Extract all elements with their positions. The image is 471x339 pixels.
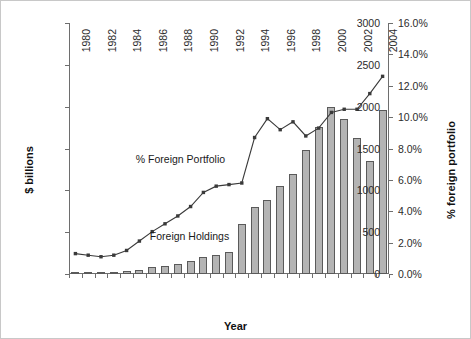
y-axis-left-title: $ billions [23, 146, 35, 194]
line-marker [74, 252, 77, 255]
x-tick-label: 2002 [362, 29, 374, 52]
x-tick [210, 274, 211, 278]
line-marker [266, 117, 269, 120]
line-marker [138, 239, 141, 242]
x-axis-title: Year [1, 320, 470, 332]
x-tick [325, 274, 326, 278]
x-tick-label: 1982 [106, 29, 118, 52]
y-tick-right [389, 149, 393, 150]
y-tick-label-right: 12.0% [398, 80, 428, 92]
x-tick-label: 1980 [80, 29, 92, 52]
y-tick-left [65, 149, 69, 150]
line-marker [253, 136, 256, 139]
line-marker [291, 120, 294, 123]
x-tick [299, 274, 300, 278]
y-tick-label-right: 0.0% [398, 268, 422, 280]
y-tick-label-left: 2000 [357, 101, 380, 113]
line-marker [381, 75, 384, 78]
y-tick-label-left: 3000 [357, 17, 380, 29]
annotation-bar-label: Foreign Holdings [150, 230, 229, 242]
x-tick [312, 274, 313, 278]
line-marker [125, 249, 128, 252]
line-marker [202, 191, 205, 194]
line-marker [176, 214, 179, 217]
y-tick-label-left: 2500 [357, 59, 380, 71]
x-tick [146, 274, 147, 278]
y-tick-label-right: 6.0% [398, 174, 422, 186]
x-tick [274, 274, 275, 278]
y-tick-right [389, 117, 393, 118]
line-marker [163, 222, 166, 225]
x-tick [389, 274, 390, 278]
x-tick [287, 274, 288, 278]
line-marker [215, 184, 218, 187]
line-marker [240, 181, 243, 184]
y-tick-label-left: 500 [362, 226, 380, 238]
x-tick [184, 274, 185, 278]
x-tick-label: 2004 [387, 29, 399, 52]
x-tick [376, 274, 377, 278]
line-marker [343, 108, 346, 111]
y-tick-right [389, 211, 393, 212]
x-tick [248, 274, 249, 278]
y-tick-label-left: 1000 [357, 184, 380, 196]
x-tick [197, 274, 198, 278]
x-tick-label: 1996 [285, 29, 297, 52]
y-tick-left [65, 232, 69, 233]
line-marker [279, 128, 282, 131]
y-tick-label-right: 8.0% [398, 143, 422, 155]
y-tick-left [65, 107, 69, 108]
x-tick [120, 274, 121, 278]
x-tick-label: 1984 [131, 29, 143, 52]
x-tick-label: 1986 [157, 29, 169, 52]
line-marker [368, 92, 371, 95]
x-tick [351, 274, 352, 278]
chart-figure: $ billions % foreign portfolio Year 0500… [0, 0, 471, 339]
plot-area: 050010001500200025003000 0.0%2.0%4.0%6.0… [69, 23, 389, 274]
line-marker [87, 253, 90, 256]
x-tick [223, 274, 224, 278]
x-tick [159, 274, 160, 278]
x-tick-label: 1988 [182, 29, 194, 52]
x-tick-label: 1992 [234, 29, 246, 52]
x-tick [95, 274, 96, 278]
x-tick [363, 274, 364, 278]
annotation-line-label: % Foreign Portfolio [136, 153, 225, 165]
y-tick-label-right: 16.0% [398, 17, 428, 29]
y-tick-label-right: 10.0% [398, 111, 428, 123]
line-marker [99, 255, 102, 258]
x-tick [133, 274, 134, 278]
y-tick-label-left: 1500 [357, 143, 380, 155]
y-tick-label-right: 4.0% [398, 205, 422, 217]
y-tick-right [389, 54, 393, 55]
y-tick-right [389, 180, 393, 181]
x-tick-label: 1990 [208, 29, 220, 52]
x-tick [338, 274, 339, 278]
x-tick-label: 1998 [310, 29, 322, 52]
line-marker [330, 111, 333, 114]
x-tick-label: 2000 [336, 29, 348, 52]
line-marker [304, 134, 307, 137]
y-tick-label-right: 2.0% [398, 237, 422, 249]
y-tick-right [389, 23, 393, 24]
y-tick-right [389, 86, 393, 87]
y-axis-right-title: % foreign portfolio [445, 121, 457, 219]
line-marker [227, 183, 230, 186]
y-tick-left [65, 65, 69, 66]
x-tick [171, 274, 172, 278]
x-tick [107, 274, 108, 278]
x-tick [235, 274, 236, 278]
y-tick-label-right: 14.0% [398, 48, 428, 60]
y-tick-left [65, 190, 69, 191]
x-tick-label: 1994 [259, 29, 271, 52]
x-tick [69, 274, 70, 278]
x-tick [261, 274, 262, 278]
line-marker [112, 253, 115, 256]
y-tick-left [65, 23, 69, 24]
line-marker [189, 205, 192, 208]
y-tick-right [389, 243, 393, 244]
x-tick [82, 274, 83, 278]
line-marker [317, 126, 320, 129]
